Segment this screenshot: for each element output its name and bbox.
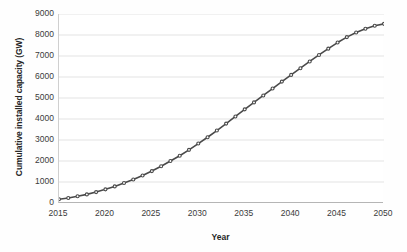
data-point-marker bbox=[327, 47, 330, 50]
data-point-marker bbox=[197, 142, 200, 145]
y-tick-label: 6000 bbox=[14, 72, 54, 81]
data-point-marker bbox=[318, 53, 321, 56]
x-tick-label: 2045 bbox=[314, 208, 360, 218]
data-point-marker bbox=[104, 188, 107, 191]
x-tick-label: 2040 bbox=[267, 208, 313, 218]
data-point-marker bbox=[178, 154, 181, 157]
data-point-marker bbox=[225, 122, 228, 125]
x-tick-label: 2015 bbox=[35, 208, 81, 218]
data-point-marker bbox=[253, 101, 256, 104]
x-tick-label: 2025 bbox=[128, 208, 174, 218]
data-point-marker bbox=[206, 136, 209, 139]
data-point-marker bbox=[345, 36, 348, 39]
data-point-marker bbox=[299, 67, 302, 70]
data-point-marker bbox=[113, 185, 116, 188]
data-point-marker bbox=[373, 24, 376, 27]
data-point-marker bbox=[132, 178, 135, 181]
data-point-marker bbox=[123, 182, 126, 185]
x-tick-label: 2020 bbox=[81, 208, 127, 218]
data-point-marker bbox=[150, 170, 153, 173]
data-point-marker bbox=[141, 174, 144, 177]
data-point-marker bbox=[280, 80, 283, 83]
data-point-marker bbox=[383, 22, 385, 25]
data-point-marker bbox=[67, 196, 70, 199]
data-point-marker bbox=[243, 108, 246, 111]
data-point-marker bbox=[290, 73, 293, 76]
data-point-marker bbox=[188, 148, 191, 151]
data-point-marker bbox=[215, 129, 218, 132]
data-point-marker bbox=[169, 160, 172, 163]
data-point-marker bbox=[271, 87, 274, 90]
y-tick-label: 3000 bbox=[14, 135, 54, 144]
y-tick-label: 9000 bbox=[14, 9, 54, 18]
data-point-marker bbox=[59, 198, 61, 201]
x-axis-title: Year bbox=[58, 232, 383, 242]
chart-figure: Cumulative installed capacity (GW) 01000… bbox=[0, 0, 407, 252]
data-point-marker bbox=[336, 41, 339, 44]
y-tick-label: 5000 bbox=[14, 93, 54, 102]
y-tick-label: 2000 bbox=[14, 156, 54, 165]
data-point-marker bbox=[364, 27, 367, 30]
x-tick-label: 2035 bbox=[221, 208, 267, 218]
data-point-marker bbox=[355, 31, 358, 34]
y-tick-label: 1000 bbox=[14, 177, 54, 186]
y-tick-label: 8000 bbox=[14, 30, 54, 39]
y-tick-label: 0 bbox=[14, 198, 54, 207]
y-tick-label: 7000 bbox=[14, 51, 54, 60]
data-point-marker bbox=[85, 193, 88, 196]
data-point-marker bbox=[95, 191, 98, 194]
x-tick-label: 2050 bbox=[360, 208, 406, 218]
data-point-marker bbox=[160, 165, 163, 168]
plot-area bbox=[58, 14, 383, 203]
data-point-marker bbox=[76, 195, 79, 198]
series-line-chart bbox=[59, 14, 384, 203]
data-point-marker bbox=[234, 115, 237, 118]
data-point-marker bbox=[262, 94, 265, 97]
series-line bbox=[59, 24, 384, 199]
x-tick-label: 2030 bbox=[174, 208, 220, 218]
data-point-marker bbox=[308, 60, 311, 63]
y-tick-label: 4000 bbox=[14, 114, 54, 123]
